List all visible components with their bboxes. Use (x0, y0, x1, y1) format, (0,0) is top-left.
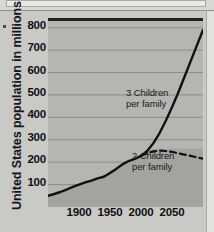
area-fill (48, 149, 203, 207)
y-tick-100: 100 (2, 176, 46, 188)
page-right-edge (206, 11, 214, 232)
three-children-line2: per family (126, 98, 168, 109)
x-axis-tick-labels: 1900195020002050 (48, 206, 203, 226)
three-children-annotation: 3 Children per family (126, 87, 168, 109)
y-tick-600: 600 (2, 64, 46, 76)
x-tick-2050: 2050 (152, 206, 192, 218)
y-tick-700: 700 (2, 41, 46, 53)
y-tick-300: 300 (2, 131, 46, 143)
three-children-line1: 3 Children (126, 87, 168, 98)
y-axis-tick-labels: 100200300400500600700800 (0, 18, 46, 204)
chart-canvas (48, 21, 203, 207)
two-children-annotation: 2 Children per family (132, 150, 174, 172)
y-tick-500: 500 (2, 86, 46, 98)
two-children-line1: 2 Children (132, 150, 174, 161)
cropped-element-inner (6, 0, 206, 7)
two-children-line2: per family (132, 161, 174, 172)
plot-area: 3 Children per family 2 Children per fam… (48, 18, 203, 204)
y-tick-800: 800 (2, 19, 46, 31)
cropped-element-band (0, 0, 214, 11)
chart-page: United States population in millions 100… (0, 0, 214, 232)
y-tick-400: 400 (2, 108, 46, 120)
y-tick-200: 200 (2, 153, 46, 165)
